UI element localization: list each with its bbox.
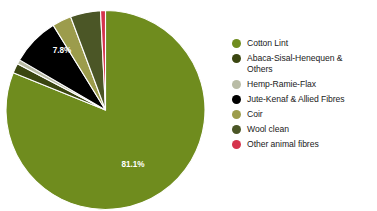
legend-item-label: Abaca-Sisal-Henequen & Others xyxy=(247,53,342,74)
legend-swatch-icon xyxy=(232,39,241,48)
legend-item[interactable]: Coir xyxy=(232,109,377,120)
chart-legend: Cotton LintAbaca-Sisal-Henequen & Others… xyxy=(232,38,377,154)
legend-item[interactable]: Abaca-Sisal-Henequen & Others xyxy=(232,53,377,74)
legend-swatch-icon xyxy=(232,110,241,119)
legend-item-label: Jute-Kenaf & Allied Fibres xyxy=(247,94,345,105)
legend-swatch-icon xyxy=(232,125,241,134)
legend-swatch-icon xyxy=(232,140,241,149)
pie-slice-group xyxy=(6,11,205,210)
legend-item-label: Wool clean xyxy=(247,124,289,135)
slice-label-jute-kenaf: 7.8% xyxy=(53,46,72,55)
pie-chart-svg: 81.1% 7.8% xyxy=(0,0,222,211)
legend-item[interactable]: Other animal fibres xyxy=(232,139,377,150)
pie-chart-plot-area: 81.1% 7.8% xyxy=(0,0,222,211)
legend-swatch-icon xyxy=(232,80,241,89)
legend-item[interactable]: Hemp-Ramie-Flax xyxy=(232,79,377,90)
legend-item-label: Hemp-Ramie-Flax xyxy=(247,79,316,90)
legend-item-label: Coir xyxy=(247,109,263,120)
legend-swatch-icon xyxy=(232,95,241,104)
legend-item[interactable]: Wool clean xyxy=(232,124,377,135)
legend-item[interactable]: Cotton Lint xyxy=(232,38,377,49)
legend-swatch-icon xyxy=(232,54,241,63)
pie-chart-figure: 81.1% 7.8% Cotton LintAbaca-Sisal-Henequ… xyxy=(0,0,377,211)
slice-label-cotton-lint: 81.1% xyxy=(121,160,145,169)
legend-item-label: Cotton Lint xyxy=(247,38,288,49)
legend-item[interactable]: Jute-Kenaf & Allied Fibres xyxy=(232,94,377,105)
legend-item-label: Other animal fibres xyxy=(247,139,319,150)
